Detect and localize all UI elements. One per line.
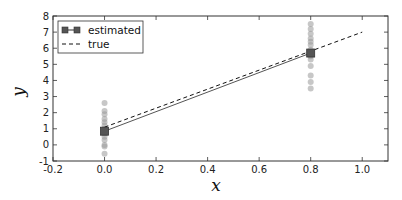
- y-tick-label: 6: [43, 43, 49, 54]
- y-tick-label: 7: [43, 27, 49, 38]
- chart: -0.20.00.20.40.60.81.0 -1012345678 x y e…: [0, 0, 402, 200]
- y-tick-label: 5: [43, 59, 49, 70]
- legend-estimated-marker-icon: [74, 27, 80, 33]
- sample-point: [308, 73, 314, 79]
- sample-point: [308, 79, 314, 85]
- legend-estimated-label: estimated: [88, 24, 141, 36]
- y-tick-label: -1: [39, 156, 49, 167]
- sample-point: [102, 151, 108, 157]
- x-tick-label: 0.6: [251, 164, 267, 175]
- legend-estimated-marker-icon: [62, 27, 68, 33]
- estimated-marker: [307, 49, 315, 57]
- sample-point: [308, 63, 314, 69]
- y-tick-label: 0: [43, 139, 49, 150]
- y-tick-label: 1: [43, 123, 49, 134]
- sample-point: [102, 100, 108, 106]
- x-tick-label: 0.8: [303, 164, 319, 175]
- y-axis-label: y: [8, 87, 28, 98]
- x-tick-label: 0.0: [97, 164, 113, 175]
- estimated-line: [105, 53, 311, 131]
- estimated-marker: [101, 127, 109, 135]
- y-tick-label: 3: [43, 91, 49, 102]
- legend-true-label: true: [88, 38, 110, 50]
- x-axis-label: x: [211, 175, 221, 195]
- sample-point: [308, 86, 314, 92]
- y-tick-label: 8: [43, 11, 49, 22]
- y-tick-label: 2: [43, 107, 49, 118]
- legend: estimated true: [58, 21, 143, 53]
- x-tick-label: 1.0: [354, 164, 370, 175]
- x-tick-label: 0.4: [200, 164, 216, 175]
- sample-point: [102, 144, 108, 150]
- y-tick-label: 4: [43, 75, 49, 86]
- x-tick-label: 0.2: [148, 164, 164, 175]
